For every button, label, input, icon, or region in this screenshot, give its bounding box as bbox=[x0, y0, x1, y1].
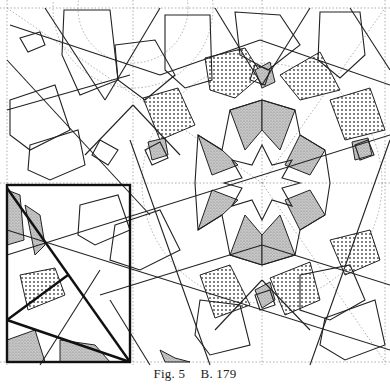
geometric-pattern-figure bbox=[0, 0, 390, 370]
pattern-lines bbox=[7, 8, 390, 365]
figure-number: Fig. 5 bbox=[154, 366, 186, 381]
figure-reference: B. 179 bbox=[201, 366, 237, 381]
figure-caption: Fig. 5 B. 179 bbox=[0, 366, 390, 382]
stipple-regions bbox=[7, 62, 372, 362]
